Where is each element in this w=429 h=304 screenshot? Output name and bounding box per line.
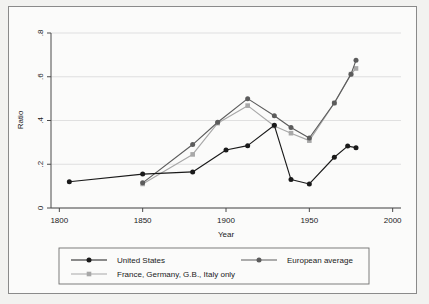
data-point-marker — [245, 143, 250, 148]
data-point-marker — [354, 58, 359, 63]
legend-label-2: France, Germany, G.B., Italy only — [117, 270, 235, 279]
y-tick-label-0: 0 — [36, 205, 45, 210]
x-tick-label-1: 1850 — [134, 216, 152, 225]
data-point-marker — [349, 72, 354, 77]
data-point-marker — [140, 172, 145, 177]
chart-svg: 0.2.4.6.8 18001850190019502000 Ratio Yea… — [9, 7, 418, 295]
x-axis-title: Year — [218, 230, 235, 239]
series-line-2 — [143, 68, 356, 184]
legend-swatch-marker-1 — [257, 258, 262, 263]
y-axis-title: Ratio — [16, 110, 25, 129]
x-axis-ticks-group: 18001850190019502000 — [50, 208, 402, 225]
y-tick-label-1: .2 — [36, 160, 45, 167]
data-point-marker — [190, 142, 195, 147]
data-point-marker — [245, 103, 250, 108]
data-point-marker — [67, 179, 72, 184]
data-point-marker — [215, 120, 220, 125]
data-point-marker — [332, 101, 337, 106]
data-point-marker — [354, 145, 359, 150]
data-point-marker — [224, 148, 229, 153]
data-point-marker — [272, 123, 277, 128]
data-point-marker — [190, 169, 195, 174]
data-point-marker — [289, 177, 294, 182]
y-tick-label-4: .8 — [36, 29, 45, 36]
legend-label-0: United States — [117, 256, 165, 265]
legend-swatch-marker-2 — [87, 272, 92, 277]
y-axis-ticks-group: 0.2.4.6.8 — [36, 29, 51, 210]
data-point-marker — [190, 152, 195, 157]
gridlines-group — [51, 33, 401, 208]
data-point-marker — [245, 96, 250, 101]
data-point-marker — [307, 136, 312, 141]
chart-legend: United StatesEuropean averageFrance, Ger… — [59, 248, 369, 284]
data-point-marker — [345, 144, 350, 149]
x-tick-label-3: 1950 — [300, 216, 318, 225]
data-point-marker — [354, 66, 359, 71]
data-point-marker — [140, 180, 145, 185]
legend-swatch-marker-0 — [87, 258, 92, 263]
y-tick-label-3: .6 — [36, 73, 45, 80]
data-point-marker — [289, 125, 294, 130]
data-point-marker — [332, 155, 337, 160]
legend-label-1: European average — [287, 256, 353, 265]
x-tick-label-0: 1800 — [50, 216, 68, 225]
x-tick-label-4: 2000 — [384, 216, 402, 225]
data-point-marker — [307, 181, 312, 186]
figure-frame: 0.2.4.6.8 18001850190019502000 Ratio Yea… — [8, 6, 417, 294]
plot-container: 0.2.4.6.8 18001850190019502000 Ratio Yea… — [9, 7, 418, 295]
data-point-marker — [289, 131, 294, 136]
x-tick-label-2: 1900 — [217, 216, 235, 225]
data-point-marker — [272, 113, 277, 118]
y-tick-label-2: .4 — [36, 117, 45, 124]
